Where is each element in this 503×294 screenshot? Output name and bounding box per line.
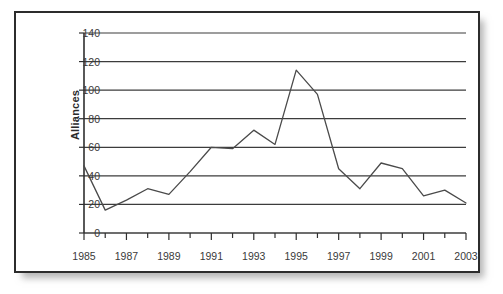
y-axis-tick-label: 0	[66, 228, 100, 239]
x-axis-tick-label: 1997	[317, 251, 361, 262]
x-axis-tick-label: 1987	[104, 251, 148, 262]
y-axis-tick-label: 60	[66, 142, 100, 153]
x-axis-tick-label: 2003	[444, 251, 488, 262]
x-axis-tick-labels: 1985198719891991199319951997199920012003	[16, 251, 478, 267]
chart-plot-container: Alliances 020406080100120140 19851987198…	[16, 13, 478, 271]
y-axis-tick-labels: 020406080100120140	[16, 13, 478, 271]
x-axis-tick-label: 2001	[402, 251, 446, 262]
y-axis-tick-label: 20	[66, 199, 100, 210]
x-axis-tick-label: 1995	[274, 251, 318, 262]
y-axis-tick-label: 140	[66, 28, 100, 39]
chart-panel: Alliances 020406080100120140 19851987198…	[14, 11, 480, 273]
x-axis-tick-label: 1999	[359, 251, 403, 262]
y-axis-tick-label: 120	[66, 57, 100, 68]
x-axis-tick-label: 1991	[189, 251, 233, 262]
figure-root: Alliances 020406080100120140 19851987198…	[0, 0, 503, 294]
y-axis-tick-label: 100	[66, 85, 100, 96]
y-axis-tick-label: 40	[66, 171, 100, 182]
x-axis-tick-label: 1985	[62, 251, 106, 262]
y-axis-tick-label: 80	[66, 114, 100, 125]
x-axis-tick-label: 1993	[232, 251, 276, 262]
x-axis-tick-label: 1989	[147, 251, 191, 262]
